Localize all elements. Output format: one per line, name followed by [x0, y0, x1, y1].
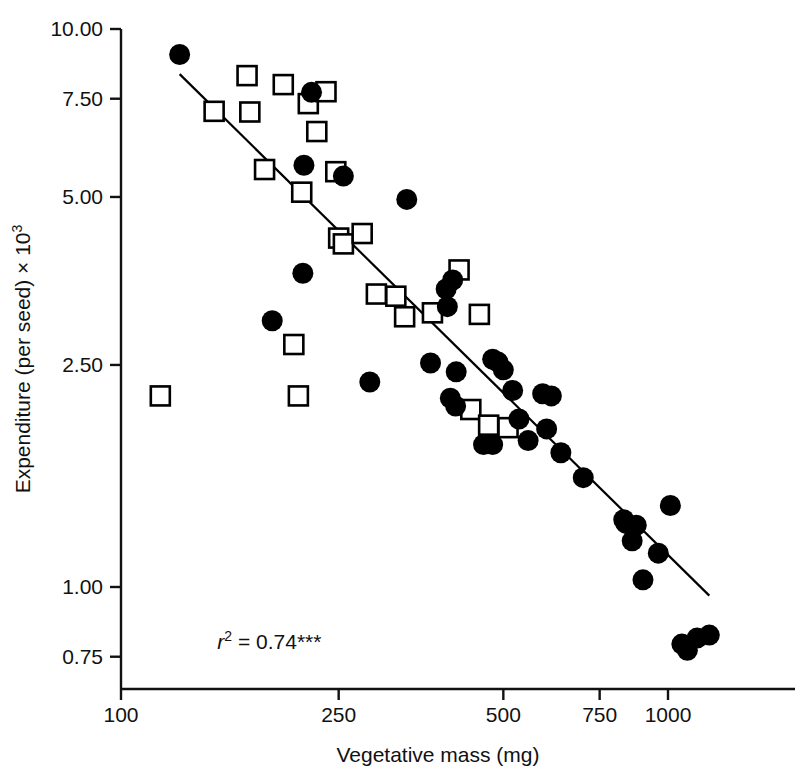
- data-point-filled-circle: [301, 82, 322, 103]
- data-point-open-square: [479, 416, 498, 435]
- data-point-filled-circle: [440, 388, 461, 409]
- data-point-open-square: [334, 234, 353, 253]
- open-square-markers-group: [151, 66, 518, 437]
- filled-circle-markers-group: [169, 44, 720, 661]
- data-point-open-square: [386, 287, 405, 306]
- data-point-filled-circle: [622, 530, 643, 551]
- y-tick-label-7.50: 7.50: [62, 87, 103, 110]
- y-tick-label-1.00: 1.00: [62, 575, 103, 598]
- data-point-filled-circle: [292, 263, 313, 284]
- tick-labels-group: 10.007.505.002.501.000.75100250500750100…: [50, 17, 691, 726]
- data-point-filled-circle: [541, 385, 562, 406]
- data-point-filled-circle: [169, 44, 190, 65]
- plot-canvas: 10.007.505.002.501.000.75100250500750100…: [0, 0, 805, 774]
- r-squared-annotation: r2 = 0.74***: [217, 628, 321, 653]
- annotation-group: r2 = 0.74***: [217, 628, 321, 653]
- y-tick-label-5.00: 5.00: [62, 185, 103, 208]
- data-point-filled-circle: [648, 543, 669, 564]
- data-point-open-square: [238, 66, 257, 85]
- data-point-open-square: [470, 305, 489, 324]
- x-tick-label-750: 750: [582, 703, 617, 726]
- data-point-filled-circle: [536, 418, 557, 439]
- data-point-open-square: [151, 386, 170, 405]
- x-tick-label-250: 250: [321, 703, 356, 726]
- data-point-filled-circle: [293, 155, 314, 176]
- data-point-open-square: [395, 307, 414, 326]
- data-point-filled-circle: [482, 434, 503, 455]
- data-point-filled-circle: [573, 467, 594, 488]
- y-tick-label-10.00: 10.00: [50, 17, 103, 40]
- axis-titles-group: Vegetative mass (mg)Expenditure (per see…: [9, 224, 540, 766]
- data-point-open-square: [284, 335, 303, 354]
- y-axis-title-main: Expenditure (per seed) × 10: [11, 232, 34, 493]
- data-point-filled-circle: [502, 380, 523, 401]
- data-point-filled-circle: [699, 625, 720, 646]
- data-point-filled-circle: [333, 166, 354, 187]
- data-point-open-square: [274, 75, 293, 94]
- r-exponent: 2: [224, 628, 232, 644]
- axes-group: [121, 29, 795, 689]
- figure-scatter-plot: 10.007.505.002.501.000.75100250500750100…: [0, 0, 805, 774]
- data-point-filled-circle: [420, 353, 441, 374]
- data-point-open-square: [255, 160, 274, 179]
- data-point-filled-circle: [262, 310, 283, 331]
- data-point-open-square: [292, 183, 311, 202]
- data-point-open-square: [240, 102, 259, 121]
- data-point-filled-circle: [632, 569, 653, 590]
- tick-marks-group: [110, 29, 668, 700]
- data-point-filled-circle: [446, 361, 467, 382]
- data-point-open-square: [353, 224, 372, 243]
- data-point-open-square: [367, 285, 386, 304]
- data-point-filled-circle: [508, 409, 529, 430]
- data-point-filled-circle: [550, 442, 571, 463]
- y-axis-title-exponent: 3: [9, 224, 25, 232]
- x-axis-title: Vegetative mass (mg): [336, 743, 539, 766]
- y-tick-label-0.75: 0.75: [62, 645, 103, 668]
- x-tick-label-500: 500: [486, 703, 521, 726]
- data-point-open-square: [307, 122, 326, 141]
- data-point-filled-circle: [493, 359, 514, 380]
- y-tick-label-2.50: 2.50: [62, 353, 103, 376]
- data-point-open-square: [205, 102, 224, 121]
- data-point-filled-circle: [437, 296, 458, 317]
- x-tick-label-1000: 1000: [645, 703, 692, 726]
- x-tick-label-100: 100: [103, 703, 138, 726]
- y-axis-title: Expenditure (per seed) × 103: [9, 224, 34, 493]
- data-point-filled-circle: [660, 495, 681, 516]
- data-point-filled-circle: [396, 189, 417, 210]
- data-point-filled-circle: [518, 430, 539, 451]
- data-point-filled-circle: [359, 372, 380, 393]
- data-point-open-square: [289, 386, 308, 405]
- r-squared-value: = 0.74***: [232, 630, 321, 653]
